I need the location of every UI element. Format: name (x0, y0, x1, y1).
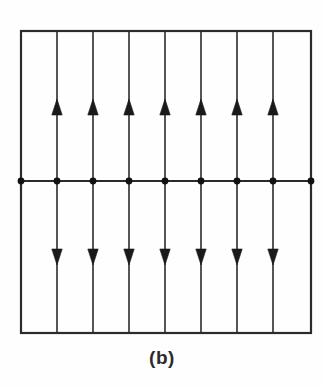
arrow-up-icon-5 (232, 99, 242, 115)
arrow-up-icon-6 (268, 99, 278, 115)
charge-dot-1 (54, 178, 61, 185)
arrow-down-icon-1 (88, 249, 98, 265)
figure-caption: (b) (0, 348, 324, 367)
down-arrow-group (52, 249, 278, 265)
field-line-diagram (0, 0, 324, 387)
charge-dot-7 (270, 178, 277, 185)
charge-dot-6 (234, 178, 241, 185)
charge-dot-3 (126, 178, 133, 185)
charge-dot-8 (308, 178, 315, 185)
arrow-down-icon-4 (196, 249, 206, 265)
figure-container: (b) (0, 0, 324, 387)
charge-dot-0 (18, 178, 25, 185)
arrow-down-icon-5 (232, 249, 242, 265)
arrow-up-icon-0 (52, 99, 62, 115)
arrow-up-icon-3 (160, 99, 170, 115)
charge-dot-2 (90, 178, 97, 185)
arrow-down-icon-6 (268, 249, 278, 265)
arrow-down-icon-2 (124, 249, 134, 265)
arrow-up-icon-2 (124, 99, 134, 115)
arrow-down-icon-3 (160, 249, 170, 265)
arrow-down-icon-0 (52, 249, 62, 265)
up-arrow-group (52, 99, 278, 115)
arrow-up-icon-1 (88, 99, 98, 115)
arrow-up-icon-4 (196, 99, 206, 115)
charge-dot-4 (162, 178, 169, 185)
charge-dot-5 (198, 178, 205, 185)
